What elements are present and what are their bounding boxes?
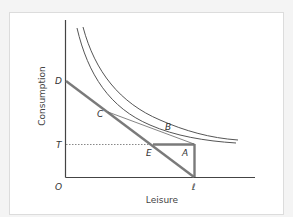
x-axis-label: Leisure	[146, 195, 179, 205]
economics-diagram: D C B T E A ℓ O Leisure Consumption	[0, 0, 293, 217]
label-e: E	[146, 148, 152, 158]
label-d: D	[55, 76, 62, 86]
label-origin: O	[55, 182, 62, 192]
budget-line	[66, 81, 194, 177]
label-c: C	[97, 109, 104, 119]
label-a: A	[181, 148, 188, 158]
label-l: ℓ	[191, 182, 196, 192]
indifference-curve-lower	[77, 28, 236, 143]
label-b: B	[165, 122, 171, 132]
y-axis-label: Consumption	[37, 66, 47, 126]
label-t: T	[56, 140, 63, 150]
indifference-curve-upper	[83, 27, 238, 140]
